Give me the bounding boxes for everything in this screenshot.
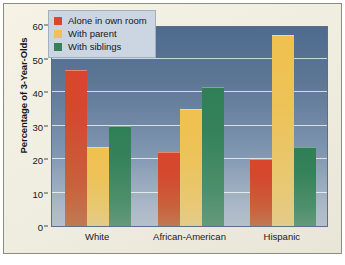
y-tick-mark (44, 226, 48, 227)
legend-item: With siblings (54, 40, 147, 53)
x-axis-labels: WhiteAfrican-AmericanHispanic (51, 231, 328, 249)
bar (87, 147, 109, 226)
y-axis-ticks: 0102030405060 (4, 26, 48, 227)
legend-label: With parent (68, 29, 117, 39)
legend-label: Alone in own room (68, 16, 147, 26)
y-tick-label: 40 (32, 88, 43, 99)
legend-label: With siblings (68, 42, 121, 52)
y-tick-mark (44, 159, 48, 160)
bar-highlight (294, 147, 316, 148)
y-tick-mark (44, 58, 48, 59)
legend-swatch-icon (54, 17, 62, 25)
bar-highlight (272, 35, 294, 36)
y-tick-mark (44, 92, 48, 93)
bar (272, 35, 294, 226)
legend-swatch-icon (54, 30, 62, 38)
y-tick-label: 0 (38, 222, 43, 233)
bar-highlight (158, 152, 180, 153)
chart-frame: Percentage of 3-Year-Olds 0102030405060 … (3, 3, 342, 254)
legend-swatch-icon (54, 43, 62, 51)
bar-highlight (250, 159, 272, 160)
legend-item: Alone in own room (54, 14, 147, 27)
legend: Alone in own roomWith parentWith sibling… (48, 10, 156, 58)
x-tick-label: White (85, 231, 109, 242)
bar-highlight (65, 70, 87, 71)
bar (294, 147, 316, 226)
bar (109, 126, 131, 227)
chart-screenshot: Percentage of 3-Year-Olds 0102030405060 … (0, 0, 345, 265)
x-tick-label: Hispanic (264, 231, 300, 242)
bar (158, 152, 180, 226)
y-tick-mark (44, 125, 48, 126)
bar (202, 87, 224, 226)
bar-highlight (87, 147, 109, 148)
bar-highlight (109, 126, 131, 127)
y-tick-label: 20 (32, 155, 43, 166)
y-tick-mark (44, 192, 48, 193)
bar-highlight (202, 87, 224, 88)
bar (250, 159, 272, 226)
y-tick-label: 50 (32, 54, 43, 65)
y-tick-label: 10 (32, 188, 43, 199)
x-tick-label: African-American (153, 231, 226, 242)
y-tick-label: 30 (32, 121, 43, 132)
bar-highlight (180, 109, 202, 110)
bar (65, 70, 87, 226)
y-tick-label: 60 (32, 21, 43, 32)
legend-item: With parent (54, 27, 147, 40)
bar (180, 109, 202, 226)
